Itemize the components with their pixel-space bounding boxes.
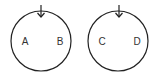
circle-group-right: C D	[88, 5, 148, 71]
diagram-canvas: A B C D	[0, 0, 161, 83]
label-c: C	[98, 36, 105, 47]
label-b: B	[57, 36, 64, 47]
label-a: A	[22, 36, 29, 47]
label-d: D	[133, 36, 140, 47]
circle-group-left: A B	[11, 5, 71, 71]
